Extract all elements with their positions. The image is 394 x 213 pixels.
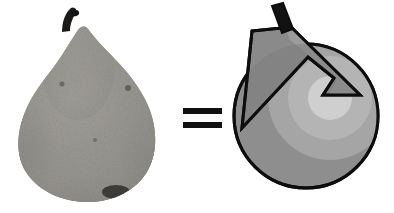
pear-spot-3 xyxy=(93,138,97,142)
figure-root: Pear equals geometric primitive decompos… xyxy=(0,0,394,213)
pear-texture-grain xyxy=(0,0,175,213)
shape-decomposition-panel xyxy=(230,0,394,213)
equals-bar-bottom xyxy=(183,122,222,128)
pear-spot-2 xyxy=(60,82,65,87)
pear-photograph-panel xyxy=(0,0,175,213)
pear-blemish xyxy=(102,185,130,199)
pear-body-group xyxy=(0,0,175,213)
shape-decomposition-diagram xyxy=(230,0,394,213)
equals-sign-icon xyxy=(175,0,230,213)
equals-bar-top xyxy=(183,108,222,114)
pear-spot-1 xyxy=(125,85,131,91)
equals-operator-panel xyxy=(175,0,230,213)
pear-photograph xyxy=(0,0,175,213)
